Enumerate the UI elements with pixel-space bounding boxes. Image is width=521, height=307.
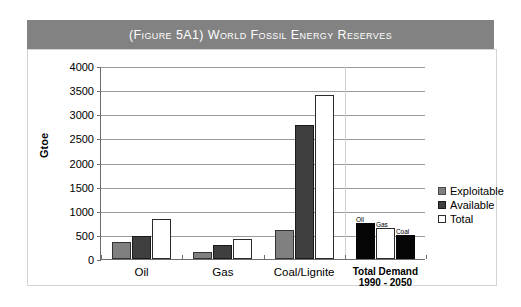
plot-area: 05001000150020002500300035004000 OilGasC…	[100, 67, 425, 260]
x-tick-mark	[264, 255, 265, 259]
x-axis-category-line2: 1990 - 2050	[353, 277, 418, 288]
y-tick-mark	[97, 188, 101, 189]
legend-item-available: Available	[438, 199, 504, 211]
y-tick-label: 4000	[70, 61, 94, 73]
x-axis-category-label: Total Demand1990 - 2050	[353, 266, 418, 288]
bar-total-demand-coal: Coal	[396, 235, 415, 259]
y-tick-label: 500	[76, 230, 94, 242]
bar-gas-available	[213, 245, 232, 259]
y-tick-label: 2500	[70, 133, 94, 145]
legend-label: Exploitable	[450, 185, 504, 197]
bar-oil-total	[152, 219, 171, 259]
figure-title-banner: (Figure 5A1) World Fossil Energy Reserve…	[27, 20, 494, 49]
chart-frame: Gtoe 05001000150020002500300035004000 Oi…	[27, 49, 497, 286]
y-tick-label: 2000	[70, 158, 94, 170]
gridline	[101, 212, 425, 213]
gridline	[101, 164, 425, 165]
legend-item-total: Total	[438, 213, 504, 225]
y-tick-mark	[97, 236, 101, 237]
y-tick-label: 1000	[70, 206, 94, 218]
bar-coal-lignite-available	[295, 125, 314, 259]
x-axis-category-label: Gas	[212, 267, 233, 278]
x-axis-category-label: Oil	[135, 267, 149, 278]
legend-label: Total	[450, 213, 473, 225]
bar-value-label: Oil	[356, 216, 364, 224]
bar-gas-exploitable	[193, 252, 212, 259]
bar-value-label: Gas	[376, 221, 388, 229]
bar-total-demand-gas: Gas	[376, 228, 395, 259]
y-tick-mark	[97, 164, 101, 165]
y-tick-mark	[97, 91, 101, 92]
legend-swatch-total	[438, 215, 446, 223]
bar-oil-exploitable	[112, 242, 131, 259]
x-axis-category-line1: Total Demand	[353, 266, 418, 277]
x-axis-category-label: Coal/Lignite	[274, 267, 335, 278]
legend-swatch-exploitable	[438, 187, 446, 195]
gridline	[101, 188, 425, 189]
bar-oil-available	[132, 236, 151, 259]
group-divider	[345, 67, 346, 259]
y-tick-label: 3500	[70, 85, 94, 97]
legend-item-exploitable: Exploitable	[438, 185, 504, 197]
x-axis-category-line1: Coal/Lignite	[274, 267, 335, 278]
legend-swatch-available	[438, 201, 446, 209]
y-tick-mark	[97, 67, 101, 68]
x-tick-mark	[182, 255, 183, 259]
bar-coal-lignite-total	[315, 95, 334, 259]
y-tick-mark	[97, 260, 101, 261]
y-axis-title: Gtoe	[38, 133, 50, 158]
y-tick-label: 1500	[70, 182, 94, 194]
figure-title: (Figure 5A1) World Fossil Energy Reserve…	[129, 28, 392, 42]
x-axis-category-line1: Gas	[212, 267, 233, 278]
x-tick-mark	[426, 255, 427, 259]
gridline	[101, 139, 425, 140]
gridline	[101, 67, 425, 68]
bar-value-label: Coal	[396, 228, 409, 236]
gridline	[101, 91, 425, 92]
x-tick-mark	[101, 255, 102, 259]
y-tick-label: 3000	[70, 109, 94, 121]
bar-gas-total	[233, 239, 252, 259]
figure-screenshot: (Figure 5A1) World Fossil Energy Reserve…	[0, 0, 521, 307]
gridline	[101, 115, 425, 116]
x-tick-mark	[345, 255, 346, 259]
y-tick-label: 0	[88, 254, 94, 266]
bar-total-demand-oil: Oil	[356, 223, 375, 259]
x-axis-category-line1: Oil	[135, 267, 149, 278]
bar-coal-lignite-exploitable	[275, 230, 294, 259]
y-tick-mark	[97, 115, 101, 116]
y-tick-mark	[97, 139, 101, 140]
legend-label: Available	[450, 199, 494, 211]
y-tick-mark	[97, 212, 101, 213]
chart-legend: ExploitableAvailableTotal	[438, 185, 504, 225]
